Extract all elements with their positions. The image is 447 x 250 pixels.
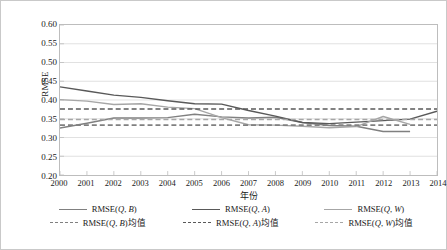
- x-tick-label: 2002: [105, 178, 122, 188]
- legend-swatch-solid-line-icon: [192, 208, 220, 210]
- legend-label: RMSE(Q, W): [357, 204, 404, 214]
- legend-item[interactable]: RMSE(Q, W)均值: [298, 216, 431, 228]
- legend-item[interactable]: RMSE(Q, W): [298, 204, 431, 214]
- series-line: [60, 114, 410, 131]
- y-axis-tick-labels: 0.200.250.300.350.400.450.500.550.60: [25, 24, 57, 176]
- x-tick-label: 2004: [159, 178, 176, 188]
- legend-label: RMSE(Q, A)均值: [216, 216, 279, 228]
- x-axis-title: 年份: [59, 189, 438, 202]
- legend-item[interactable]: RMSE(Q, B)均值: [31, 216, 164, 228]
- x-tick-label: 2014: [430, 178, 447, 188]
- y-tick-label: 0.45: [41, 77, 57, 86]
- y-tick-label: 0.60: [41, 20, 57, 29]
- y-tick-label: 0.55: [41, 39, 57, 48]
- x-tick-label: 2003: [132, 178, 149, 188]
- x-tick-label: 2006: [213, 178, 230, 188]
- x-tick-label: 2007: [240, 178, 257, 188]
- legend-item[interactable]: RMSE(Q, B): [31, 204, 164, 214]
- legend-label: RMSE(Q, W)均值: [348, 216, 413, 228]
- legend-swatch-dashed-line-icon: [315, 221, 343, 223]
- legend-swatch-dashed-line-icon: [50, 221, 78, 223]
- chart-legend: RMSE(Q, B)RMSE(Q, A)RMSE(Q, W) RMSE(Q, B…: [31, 204, 431, 230]
- legend-label: RMSE(Q, B): [92, 204, 137, 214]
- legend-swatch-solid-line-icon: [59, 208, 87, 210]
- legend-item[interactable]: RMSE(Q, A)均值: [164, 216, 297, 228]
- legend-row-means: RMSE(Q, B)均值RMSE(Q, A)均值RMSE(Q, W)均值: [31, 216, 431, 228]
- x-tick-label: 2005: [186, 178, 203, 188]
- y-tick-label: 0.35: [41, 115, 57, 124]
- plot-svg: [60, 25, 437, 175]
- series-line: [60, 100, 410, 128]
- legend-label: RMSE(Q, A): [225, 204, 270, 214]
- x-tick-label: 2011: [348, 178, 365, 188]
- legend-row-series: RMSE(Q, B)RMSE(Q, A)RMSE(Q, W): [31, 204, 431, 214]
- x-tick-label: 2009: [294, 178, 311, 188]
- x-tick-label: 2010: [321, 178, 338, 188]
- y-tick-label: 0.50: [41, 58, 57, 67]
- legend-swatch-solid-line-icon: [324, 208, 352, 210]
- y-tick-label: 0.30: [41, 134, 57, 143]
- plot-area: [59, 24, 438, 176]
- legend-swatch-dashed-line-icon: [183, 221, 211, 223]
- x-tick-label: 2008: [267, 178, 284, 188]
- x-tick-label: 2013: [402, 178, 419, 188]
- legend-item[interactable]: RMSE(Q, A): [164, 204, 297, 214]
- y-tick-label: 0.40: [41, 96, 57, 105]
- x-tick-label: 2001: [78, 178, 95, 188]
- legend-label: RMSE(Q, B)均值: [83, 216, 146, 228]
- x-tick-label: 2000: [51, 178, 68, 188]
- rmse-line-chart-figure: RMSE 0.200.250.300.350.400.450.500.550.6…: [0, 0, 447, 250]
- y-tick-label: 0.25: [41, 153, 57, 162]
- x-tick-label: 2012: [375, 178, 392, 188]
